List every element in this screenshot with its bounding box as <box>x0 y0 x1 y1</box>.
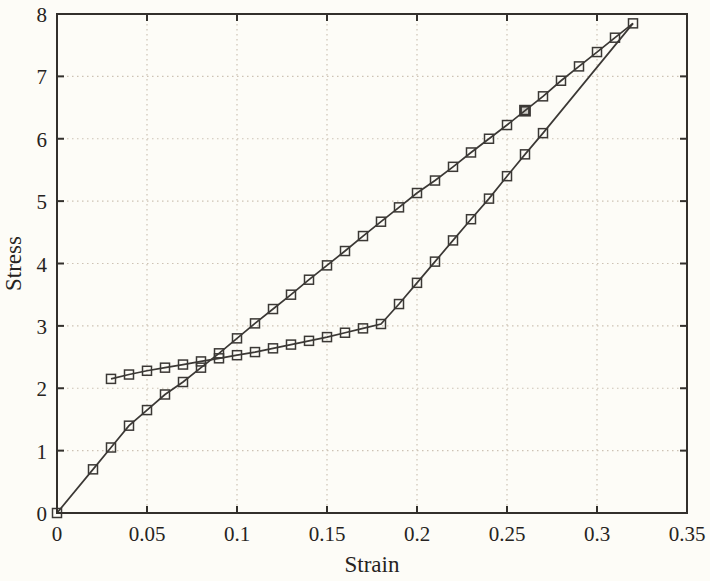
x-tick-label: 0.05 <box>129 522 166 546</box>
y-tick-label: 6 <box>37 128 48 152</box>
y-tick-label: 1 <box>37 440 48 464</box>
x-tick-label: 0.15 <box>309 522 346 546</box>
x-tick-label: 0.2 <box>404 522 430 546</box>
y-tick-label: 4 <box>37 253 48 277</box>
y-axis-label: Stress <box>1 236 26 291</box>
x-tick-label: 0.3 <box>584 522 610 546</box>
y-tick-label: 0 <box>37 502 48 526</box>
x-tick-label: 0 <box>52 522 63 546</box>
y-tick-label: 3 <box>37 315 48 339</box>
stress-strain-chart: 00.050.10.150.20.250.30.35012345678Strai… <box>0 0 710 581</box>
x-tick-label: 0.1 <box>224 522 250 546</box>
series-line-0 <box>57 23 633 513</box>
x-axis-label: Strain <box>345 552 400 577</box>
y-tick-label: 2 <box>37 377 48 401</box>
x-tick-label: 0.35 <box>669 522 706 546</box>
y-tick-label: 8 <box>37 3 48 27</box>
y-tick-label: 5 <box>37 190 48 214</box>
x-tick-label: 0.25 <box>489 522 526 546</box>
square-marker <box>521 106 530 115</box>
stress-strain-figure: 00.050.10.150.20.250.30.35012345678Strai… <box>0 0 710 581</box>
y-tick-label: 7 <box>37 65 48 89</box>
